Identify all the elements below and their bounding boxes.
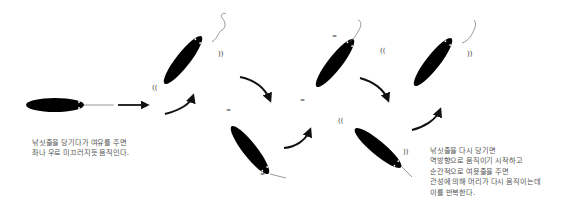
curved-arrow-icon [165,96,193,114]
lure-3-tilted-down [226,122,274,178]
vibration-mark-icon: )) [467,50,473,58]
curved-arrow-icon [240,77,270,100]
lure-eye [78,107,80,109]
vibration-mark-icon: = [226,106,231,113]
caption-right: 낚싯줄을 다시 당기면 역방향으로 움직이기 시작하고 순간적으로 여윳줄을 주… [430,146,540,198]
lure-body [226,122,274,178]
lure-body [409,34,457,90]
lure-2-tilted-up [159,32,207,88]
lure-5-tilted-down [351,123,406,172]
fishing-line-icon [212,13,226,42]
fishing-line-icon [350,20,361,42]
vibration-mark-icon: = [260,170,265,177]
curved-arrow-icon [360,78,388,100]
vibration-mark-icon: (( [338,117,344,125]
caption-line: 역방향으로 움직이기 시작하고 [430,156,540,166]
vibration-mark-icon: )) [403,148,409,156]
vibration-mark-icon: = [300,96,305,103]
vibration-mark-icon: = [332,32,337,39]
lure-1-horizontal [26,98,114,112]
caption-line: 순간적으로 여윳줄을 주면 [430,167,540,177]
caption-line: 낚싯줄을 당기다가 여유를 주면 [32,138,129,148]
vibration-mark-icon: (( [152,84,158,92]
lure-eye [78,101,80,103]
lure-body [159,32,207,88]
caption-left: 낚싯줄을 당기다가 여유를 주면 좌나 우로 미끄러지듯 움직인다. [32,138,129,159]
lure-6-tilted-up [409,34,457,90]
fishing-line-icon [462,20,476,43]
caption-line: 관성에 의해 머리가 다시 움직이는데 [430,177,540,187]
lure-body [311,35,359,91]
caption-line: 낚싯줄을 다시 당기면 [430,146,540,156]
lure-4-tilted-up [311,35,359,91]
lure-body [351,123,406,172]
curved-arrow-icon [284,130,310,148]
curved-arrow-icon [412,110,440,130]
lure-body [26,98,84,112]
vibration-mark-icon: )) [218,50,224,58]
fishing-line-icon [270,174,286,178]
caption-line: 이를 반복한다. [430,188,540,198]
caption-line: 좌나 우로 미끄러지듯 움직인다. [32,148,129,158]
fishing-line-icon [401,166,412,177]
vibration-mark-icon: (( [380,47,386,55]
